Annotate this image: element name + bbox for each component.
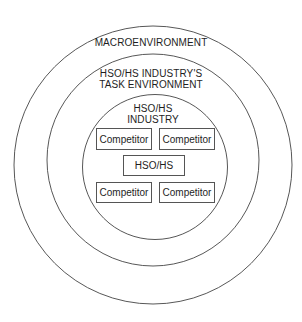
competitor-box-top-left: Competitor bbox=[96, 128, 152, 150]
task-environment-label-line1: HSO/HS INDUSTRY'S bbox=[0, 68, 302, 79]
task-environment-label-line2: TASK ENVIRONMENT bbox=[0, 79, 302, 90]
competitor-label: Competitor bbox=[100, 187, 149, 198]
macroenvironment-label: MACROENVIRONMENT bbox=[0, 37, 302, 48]
competitor-box-bottom-right: Competitor bbox=[159, 182, 215, 203]
industry-label-line1: HSO/HS bbox=[2, 103, 302, 114]
competitor-box-bottom-left: Competitor bbox=[96, 182, 152, 203]
competitor-label: Competitor bbox=[163, 187, 212, 198]
competitor-label: Competitor bbox=[100, 134, 149, 145]
competitor-box-top-right: Competitor bbox=[159, 128, 215, 150]
industry-label-line2: INDUSTRY bbox=[2, 114, 302, 125]
competitor-label: Competitor bbox=[163, 134, 212, 145]
hso-hs-box: HSO/HS bbox=[123, 155, 185, 176]
hso-hs-label: HSO/HS bbox=[135, 160, 173, 171]
